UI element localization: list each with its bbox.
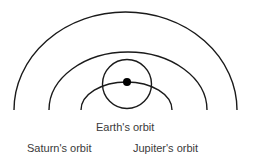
saturn-orbit-label: Saturn's orbit [27, 142, 91, 154]
planet-dot [123, 78, 131, 86]
jupiter-orbit-label: Jupiter's orbit [133, 142, 198, 154]
orbit-diagram [0, 0, 255, 165]
earth-orbit-label: Earth's orbit [96, 121, 154, 133]
saturn-orbit-arc [14, 12, 237, 110]
earth-orbit-arc [81, 82, 172, 110]
